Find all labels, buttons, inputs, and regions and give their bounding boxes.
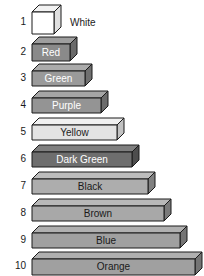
rod-number-label: 6 <box>0 154 26 164</box>
rod-number-label: 10 <box>0 261 26 271</box>
rod-color-label: Brown <box>32 209 164 219</box>
rod-shape[interactable] <box>31 4 62 35</box>
rod-number-label: 9 <box>0 235 26 245</box>
rod-color-label: Red <box>32 48 70 58</box>
cuisenaire-rod-chart: 1White2Red3Green4Purple5Yellow6Dark Gree… <box>0 0 204 276</box>
rod-color-label: Black <box>32 182 148 192</box>
rod-number-label: 7 <box>0 181 26 191</box>
rod-color-label: Dark Green <box>32 155 132 165</box>
rod-color-label: Blue <box>32 236 180 246</box>
rod-number-label: 2 <box>0 47 26 57</box>
rod-color-label: Green <box>32 74 85 84</box>
rod-color-label: Purple <box>32 101 101 111</box>
rod-number-label: 5 <box>0 127 26 137</box>
rod-number-label: 4 <box>0 100 26 110</box>
rod-color-label: White <box>70 18 96 28</box>
rod-color-label: Orange <box>32 262 195 272</box>
rod-color-label: Yellow <box>32 128 117 138</box>
rod-number-label: 1 <box>0 17 26 27</box>
rod-number-label: 3 <box>0 73 26 83</box>
rod-number-label: 8 <box>0 208 26 218</box>
